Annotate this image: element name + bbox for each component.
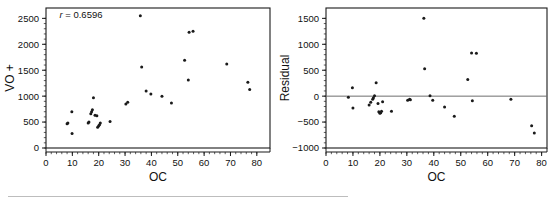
data-point xyxy=(530,124,533,127)
data-point xyxy=(429,94,432,97)
svg-text:30: 30 xyxy=(120,157,131,168)
svg-text:20: 20 xyxy=(93,157,104,168)
data-point xyxy=(431,99,434,102)
data-point xyxy=(126,101,129,104)
data-point xyxy=(423,67,426,70)
data-point xyxy=(533,131,536,134)
scatter-plot-vo-plus-svg: 0500100015002000250001020304050607080OCV… xyxy=(0,0,277,202)
data-point xyxy=(140,66,143,69)
svg-text:70: 70 xyxy=(225,157,236,168)
data-point xyxy=(369,101,372,104)
scatter-plot-residual-svg: −1000−50005001000150001020304050607080OC… xyxy=(277,0,554,202)
footer-divider xyxy=(8,196,348,197)
svg-text:500: 500 xyxy=(23,116,39,127)
data-point xyxy=(145,89,148,92)
svg-text:500: 500 xyxy=(303,65,319,76)
data-point xyxy=(160,95,163,98)
data-point xyxy=(66,122,69,125)
data-point xyxy=(246,81,249,84)
data-point xyxy=(183,59,186,62)
svg-text:50: 50 xyxy=(455,157,466,168)
svg-text:0: 0 xyxy=(314,91,319,102)
data-point xyxy=(225,63,228,66)
data-point xyxy=(248,88,251,91)
scatter-panel-residual: −1000−50005001000150001020304050607080OC… xyxy=(277,0,554,202)
data-point xyxy=(170,101,173,104)
correlation-annotation: r = 0.6596 xyxy=(59,9,102,20)
data-point xyxy=(381,100,384,103)
data-point xyxy=(347,96,350,99)
data-point xyxy=(475,52,478,55)
svg-text:50: 50 xyxy=(172,157,183,168)
y-axis-title: Residual xyxy=(278,55,292,102)
data-point xyxy=(87,121,90,124)
svg-text:10: 10 xyxy=(67,157,78,168)
svg-text:0: 0 xyxy=(34,142,39,153)
data-point xyxy=(390,110,393,113)
y-axis-title: VO + xyxy=(3,64,17,92)
svg-text:60: 60 xyxy=(482,157,493,168)
data-point xyxy=(70,110,73,113)
data-points xyxy=(347,17,536,135)
data-point xyxy=(377,102,380,105)
figure-container: 0500100015002000250001020304050607080OCV… xyxy=(0,0,554,202)
data-point xyxy=(192,30,195,33)
svg-text:1500: 1500 xyxy=(18,65,39,76)
data-point xyxy=(453,115,456,118)
data-point xyxy=(109,120,112,123)
data-point xyxy=(466,78,469,81)
svg-text:2000: 2000 xyxy=(18,39,39,50)
svg-text:80: 80 xyxy=(536,157,547,168)
data-point xyxy=(375,81,378,84)
x-axis-title: OC xyxy=(149,170,167,184)
data-point xyxy=(422,17,425,20)
data-point xyxy=(373,94,376,97)
data-point xyxy=(471,99,474,102)
svg-text:80: 80 xyxy=(252,157,263,168)
data-point xyxy=(188,31,191,34)
data-point xyxy=(509,98,512,101)
data-point xyxy=(470,52,473,55)
data-point xyxy=(187,79,190,82)
svg-text:30: 30 xyxy=(402,157,413,168)
svg-text:0: 0 xyxy=(323,157,328,168)
svg-text:40: 40 xyxy=(429,157,440,168)
data-point xyxy=(351,86,354,89)
data-point xyxy=(92,96,95,99)
svg-text:20: 20 xyxy=(375,157,386,168)
data-point xyxy=(380,110,383,113)
data-point xyxy=(351,107,354,110)
svg-text:2500: 2500 xyxy=(18,13,39,24)
svg-text:1000: 1000 xyxy=(18,91,39,102)
data-point xyxy=(95,114,98,117)
svg-text:60: 60 xyxy=(199,157,210,168)
svg-text:40: 40 xyxy=(146,157,157,168)
data-point xyxy=(91,108,94,111)
svg-text:70: 70 xyxy=(509,157,520,168)
data-point xyxy=(149,93,152,96)
svg-text:10: 10 xyxy=(348,157,359,168)
data-point xyxy=(443,106,446,109)
svg-text:1500: 1500 xyxy=(298,13,319,24)
data-point xyxy=(139,14,142,17)
svg-text:0: 0 xyxy=(43,157,48,168)
data-point xyxy=(71,132,74,135)
x-axis-title: OC xyxy=(428,170,446,184)
svg-text:−500: −500 xyxy=(298,116,319,127)
svg-text:1000: 1000 xyxy=(298,39,319,50)
data-point xyxy=(409,98,412,101)
data-point xyxy=(99,122,102,125)
svg-text:−1000: −1000 xyxy=(292,142,319,153)
scatter-panel-vo-plus: 0500100015002000250001020304050607080OCV… xyxy=(0,0,277,202)
data-points xyxy=(66,14,252,135)
data-point xyxy=(368,103,371,106)
